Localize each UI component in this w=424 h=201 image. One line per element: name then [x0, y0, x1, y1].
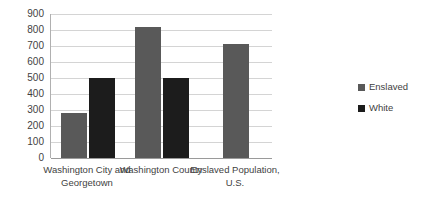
plot-area — [50, 14, 272, 158]
y-tick-label: 400 — [0, 89, 44, 99]
y-tick-label: 0 — [0, 153, 44, 163]
legend-label: White — [369, 103, 393, 113]
legend-label: Enslaved — [369, 82, 408, 92]
y-tick-label: 600 — [0, 57, 44, 67]
y-tick-label: 700 — [0, 41, 44, 51]
axis-baseline — [51, 158, 272, 159]
bar-white-0 — [89, 78, 115, 158]
y-axis: 9008007006005004003002001000 — [0, 14, 44, 158]
bar-enslaved-0 — [61, 113, 87, 158]
legend-swatch-icon — [358, 105, 365, 112]
bar-chart: 9008007006005004003002001000 Washington … — [0, 0, 424, 201]
legend-item-enslaved[interactable]: Enslaved — [358, 82, 422, 92]
bars-layer — [51, 14, 272, 158]
y-tick-label: 900 — [0, 9, 44, 19]
legend-swatch-icon — [358, 84, 365, 91]
bar-enslaved-2 — [223, 44, 249, 158]
chart-legend: EnslavedWhite — [358, 82, 422, 124]
legend-item-white[interactable]: White — [358, 103, 422, 113]
y-tick-label: 200 — [0, 121, 44, 131]
y-tick-label: 500 — [0, 73, 44, 83]
x-tick-label: Enslaved Population, U.S. — [190, 163, 280, 189]
x-axis-category-labels: Washington City and GeorgetownWashington… — [50, 163, 272, 199]
bar-white-1 — [163, 78, 189, 158]
y-tick-label: 800 — [0, 25, 44, 35]
y-tick-label: 300 — [0, 105, 44, 115]
bar-enslaved-1 — [135, 27, 161, 158]
y-tick-label: 100 — [0, 137, 44, 147]
